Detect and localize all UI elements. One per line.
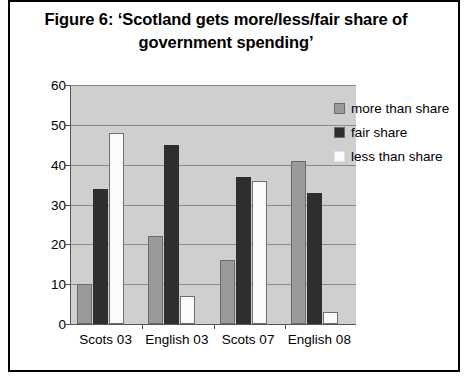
x-axis-tick-mark [214, 324, 215, 329]
y-axis-tick-label: 20 [51, 237, 66, 252]
bar[interactable] [291, 161, 306, 324]
x-axis-tick-mark [142, 324, 143, 329]
bar[interactable] [109, 133, 124, 324]
legend-item[interactable]: fair share [334, 121, 460, 143]
y-axis-tick-label: 40 [51, 157, 66, 172]
legend-swatch-icon [334, 127, 345, 138]
bar-group [71, 85, 142, 324]
y-axis-tick-label: 30 [51, 197, 66, 212]
bars-layer [71, 85, 356, 324]
x-axis-label: English 08 [284, 331, 355, 348]
figure-title: Figure 6: ‘Scotland gets more/less/fair … [24, 8, 428, 54]
x-axis-label: English 03 [141, 331, 212, 348]
bar-group [214, 85, 285, 324]
y-axis-tick-label: 60 [51, 78, 66, 93]
bar[interactable] [164, 145, 179, 324]
y-axis-ticks: 0102030405060 [40, 85, 70, 324]
bar[interactable] [323, 312, 338, 324]
y-axis-tick-label: 50 [51, 117, 66, 132]
bar[interactable] [93, 189, 108, 324]
bar[interactable] [252, 181, 267, 324]
legend-label: fair share [351, 125, 407, 140]
plot-area [70, 85, 356, 325]
bar[interactable] [180, 296, 195, 324]
legend-swatch-icon [334, 151, 345, 162]
legend-item[interactable]: more than share [334, 97, 460, 119]
legend-label: more than share [351, 101, 449, 116]
x-axis-tick-mark [285, 324, 286, 329]
bar[interactable] [220, 260, 235, 324]
bar[interactable] [148, 236, 163, 324]
x-axis-label: Scots 03 [70, 331, 141, 348]
x-axis-labels: Scots 03English 03Scots 07English 08 [70, 331, 355, 377]
y-axis-tick-label: 10 [51, 277, 66, 292]
legend-label: less than share [351, 149, 443, 164]
bar[interactable] [236, 177, 251, 324]
legend-item[interactable]: less than share [334, 145, 460, 167]
figure-panel: Figure 6: ‘Scotland gets more/less/fair … [8, 0, 460, 372]
bar-group [142, 85, 213, 324]
bar[interactable] [307, 193, 322, 324]
bar[interactable] [77, 284, 92, 324]
chart-legend: more than sharefair shareless than share [334, 97, 460, 169]
x-axis-label: Scots 07 [213, 331, 284, 348]
legend-swatch-icon [334, 103, 345, 114]
